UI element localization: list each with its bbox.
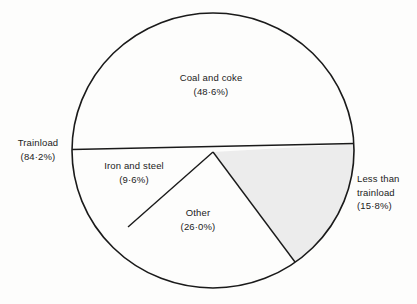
pie-label-less-than-trainload-name-line1: Less than bbox=[357, 172, 417, 186]
pie-label-coal-and-coke-name: Coal and coke bbox=[146, 71, 276, 85]
pie-label-iron-and-steel-name: Iron and steel bbox=[78, 159, 190, 173]
pie-label-iron-and-steel: Iron and steel (9·6%) bbox=[78, 159, 190, 186]
pie-label-other-name: Other bbox=[152, 206, 244, 220]
pie-label-less-than-trainload-percent: (15·8%) bbox=[357, 199, 417, 213]
pie-label-other: Other (26·0%) bbox=[152, 206, 244, 233]
pie-label-trainload-name: Trainload bbox=[2, 136, 74, 150]
pie-label-iron-and-steel-percent: (9·6%) bbox=[78, 173, 190, 187]
pie-label-less-than-trainload-name-line2: trainload bbox=[357, 186, 417, 200]
pie-label-less-than-trainload: Less than trainload (15·8%) bbox=[357, 172, 417, 213]
pie-label-coal-and-coke: Coal and coke (48·6%) bbox=[146, 71, 276, 98]
pie-label-coal-and-coke-percent: (48·6%) bbox=[146, 85, 276, 99]
pie-label-trainload-percent: (84·2%) bbox=[2, 150, 74, 164]
pie-label-other-percent: (26·0%) bbox=[152, 220, 244, 234]
pie-label-trainload: Trainload (84·2%) bbox=[2, 136, 74, 163]
pie-slice-less-than-trainload bbox=[213, 144, 354, 262]
pie-chart: Coal and coke (48·6%) Trainload (84·2%) … bbox=[0, 0, 417, 304]
